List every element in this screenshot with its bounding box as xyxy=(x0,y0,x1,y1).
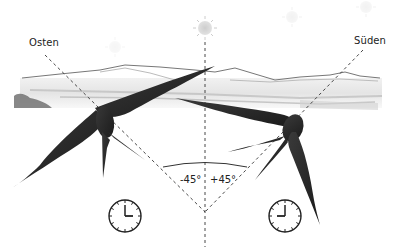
swallow-orientation-diagram: Osten Süden -45° +45° xyxy=(0,0,398,247)
sun-faint-2-icon xyxy=(282,7,302,27)
sun-faint-1-icon xyxy=(105,37,125,57)
diagram-scene xyxy=(0,0,398,247)
reference-lines xyxy=(45,42,363,247)
clock-right-icon xyxy=(269,200,301,232)
east-label: Osten xyxy=(29,37,59,48)
sun-faint-3-icon xyxy=(356,0,376,17)
angle-plus-label: +45° xyxy=(210,174,236,185)
clock-left-icon xyxy=(109,200,141,232)
sun-main-icon xyxy=(193,16,217,40)
south-label: Süden xyxy=(354,35,386,46)
angle-minus-label: -45° xyxy=(180,174,201,185)
